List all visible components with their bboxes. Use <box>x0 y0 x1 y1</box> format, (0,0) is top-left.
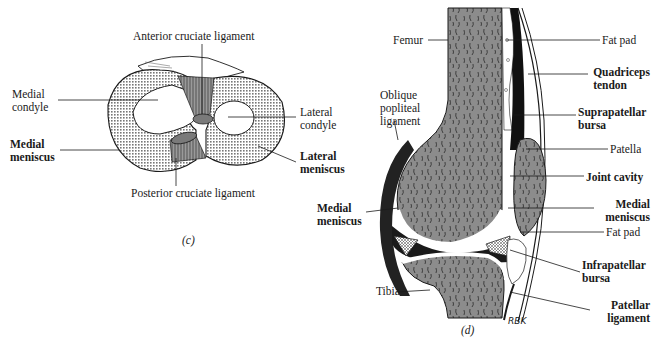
label-oblique-popliteal-ligament: Oblique popliteal ligament <box>380 89 420 128</box>
label-tibia: Tibia <box>376 285 400 298</box>
label-lateral-meniscus: Lateral meniscus <box>300 150 345 176</box>
label-infrapatellar-bursa: Infrapatellar bursa <box>582 259 646 285</box>
caption-d: (d) <box>461 324 474 336</box>
label-lateral-condyle: Lateral condyle <box>300 106 336 132</box>
tibial-plateau-drawing <box>108 56 285 171</box>
label-patellar-ligament: Patellar ligament <box>607 299 650 325</box>
label-suprapatellar-bursa: Suprapatellar bursa <box>578 106 646 132</box>
label-medial-meniscus-d-left: Medial meniscus <box>317 202 362 228</box>
label-medial-condyle: Medial condyle <box>12 88 48 114</box>
label-medial-meniscus-c: Medial meniscus <box>10 138 55 164</box>
label-fat-pad-top: Fat pad <box>602 34 636 47</box>
label-femur: Femur <box>393 34 423 47</box>
knee-sagittal-drawing: RBK <box>380 8 546 326</box>
label-medial-meniscus-d-right: Medial meniscus <box>605 198 650 224</box>
label-anterior-cruciate-ligament: Anterior cruciate ligament <box>133 30 254 43</box>
label-fat-pad-bottom: Fat pad <box>606 226 640 239</box>
caption-c: (c) <box>182 234 195 246</box>
label-patella: Patella <box>610 143 641 156</box>
label-quadriceps-tendon: Quadriceps tendon <box>593 66 650 92</box>
label-joint-cavity: Joint cavity <box>586 171 643 184</box>
label-posterior-cruciate-ligament: Posterior cruciate ligament <box>131 187 255 200</box>
artist-signature: RBK <box>508 316 527 326</box>
